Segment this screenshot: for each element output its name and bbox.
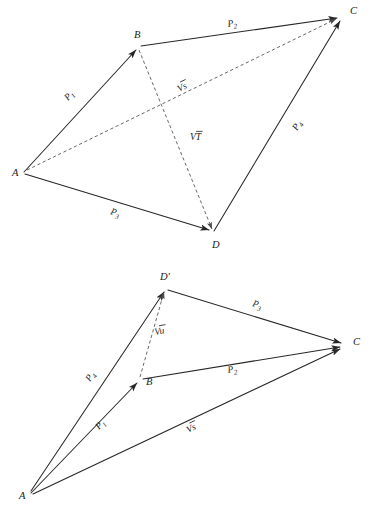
- svg-text:P2: P2: [226, 364, 239, 378]
- vertex-label-a-top: A: [11, 167, 19, 178]
- svg-text:P1: P1: [61, 89, 77, 105]
- svg-text:Vs: Vs: [185, 422, 198, 435]
- svg-text:P3: P3: [250, 298, 264, 313]
- vertex-label-d-top: D: [211, 239, 220, 250]
- edge-p1-a-to-b-bottom: [31, 383, 137, 493]
- edge-p4-a-to-dprime-bottom: [31, 292, 164, 491]
- edge-label-p2-top: P2: [226, 18, 238, 32]
- edge-label-vs-bottom: Vs: [184, 421, 199, 435]
- edge-p4-d-to-c: [214, 21, 340, 231]
- svg-text:P2: P2: [226, 18, 238, 32]
- edge-label-p4-top: P4: [290, 118, 306, 134]
- vertex-label-b-top: B: [134, 29, 141, 40]
- edge-label-p3-bottom: P3: [250, 298, 264, 313]
- vertex-label-b-bottom: B: [146, 376, 153, 387]
- edge-p2-b-to-c: [141, 18, 337, 46]
- svg-text:VT: VT: [190, 132, 202, 142]
- p2b-sub: 2: [233, 368, 238, 377]
- svg-text:P3: P3: [108, 206, 122, 221]
- edge-label-p3-top: P3: [108, 206, 122, 221]
- svg-text:Vu: Vu: [154, 325, 166, 337]
- diagram-canvas: A B C D P1 P2 P3 P4: [0, 0, 377, 523]
- svg-text:P4: P4: [83, 369, 99, 385]
- vt-t: T: [196, 132, 202, 142]
- vector-diagram-figure: A B C D P1 P2 P3 P4: [0, 0, 377, 523]
- edge-label-p4-bottom: P4: [83, 369, 99, 385]
- vertex-label-dprime-bottom: D': [159, 271, 171, 282]
- edge-label-vu-bottom: Vu: [154, 325, 168, 337]
- vertex-label-a-bottom: A: [18, 490, 26, 501]
- top-diagram: A B C D P1 P2 P3 P4: [11, 5, 358, 250]
- vertex-label-c-top: C: [350, 5, 358, 16]
- bottom-diagram: A B C D' P1 P2 P3 P4: [18, 271, 361, 501]
- svg-text:P4: P4: [290, 118, 306, 134]
- vub-u: u: [159, 325, 166, 336]
- edge-p3-a-to-d: [25, 174, 209, 230]
- edge-p1-a-to-b: [24, 50, 136, 172]
- vertex-label-c-bottom: C: [353, 336, 361, 347]
- edge-label-p2-bottom: P2: [226, 364, 239, 378]
- edge-label-p1-top: P1: [61, 89, 77, 105]
- edge-label-vs-top: Vs: [175, 79, 190, 93]
- svg-text:Vs: Vs: [175, 81, 188, 94]
- edge-label-vt-top: VT: [190, 131, 203, 142]
- p2-sub: 2: [233, 22, 238, 30]
- edge-vs-a-to-c-bottom: [33, 349, 340, 494]
